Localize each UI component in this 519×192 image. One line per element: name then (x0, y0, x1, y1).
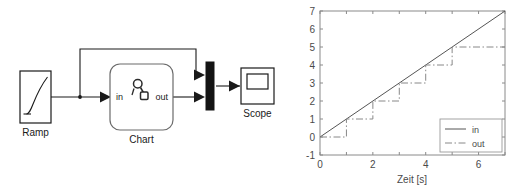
y-tick-label: 4 (309, 60, 315, 71)
chart-output-port-label: out (155, 92, 168, 102)
x-axis-tick-labels: 0246 (317, 159, 482, 170)
arrow-into-chart-in (100, 92, 111, 103)
x-tick-label: 4 (423, 159, 429, 170)
x-tick-label: 2 (370, 159, 376, 170)
scope-screen-icon (247, 74, 268, 89)
block-chart[interactable]: in out Chart (110, 64, 173, 145)
legend-label-out: out (472, 139, 485, 149)
screenshot-root: Ramp in out Chart (0, 0, 519, 192)
model-diagram: Ramp in out Chart (0, 0, 292, 192)
legend-label-in: in (472, 125, 479, 135)
block-mux[interactable] (206, 62, 214, 110)
simulink-model-canvas[interactable]: Ramp in out Chart (0, 0, 292, 192)
y-tick-label: 2 (309, 96, 315, 107)
x-axis-title: Zeit [s] (397, 174, 427, 185)
y-tick-label: 6 (309, 24, 315, 35)
block-ramp[interactable]: Ramp (20, 71, 51, 138)
y-tick-label: 7 (309, 6, 315, 17)
signal-branch-point (78, 95, 82, 99)
block-scope[interactable]: Scope (241, 68, 274, 119)
x-tick-label: 0 (317, 159, 323, 170)
y-tick-label: 1 (309, 114, 315, 125)
y-axis-tick-labels: -101234567 (306, 6, 315, 161)
arrow-into-mux-bottom (194, 92, 205, 103)
signal-plot: -101234567 0246 Zeit [s] in out (292, 0, 519, 192)
y-tick-label: -1 (306, 150, 315, 161)
legend-box (440, 119, 502, 152)
arrow-into-mux-top (194, 70, 205, 81)
scope-block-label: Scope (243, 108, 272, 119)
x-tick-label: 6 (476, 159, 482, 170)
mux-bar-icon (206, 62, 214, 110)
chart-input-port-label: in (116, 92, 123, 102)
arrow-into-scope (229, 81, 240, 92)
y-tick-label: 0 (309, 132, 315, 143)
y-tick-label: 3 (309, 78, 315, 89)
ramp-block-label: Ramp (22, 127, 49, 138)
chart-block-label: Chart (129, 134, 154, 145)
plot-canvas: -101234567 0246 Zeit [s] in out (292, 0, 519, 192)
plot-legend: in out (440, 119, 502, 152)
y-tick-label: 5 (309, 42, 315, 53)
